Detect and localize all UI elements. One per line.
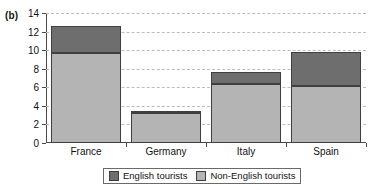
bar-segment-english-tourists[interactable] bbox=[51, 26, 121, 53]
bar-segment-non-english-tourists[interactable] bbox=[211, 84, 281, 143]
y-tick-label: 10 bbox=[28, 45, 39, 56]
legend-swatch-non-english-tourists bbox=[196, 171, 206, 181]
x-tick bbox=[366, 143, 367, 147]
y-tick bbox=[42, 13, 46, 14]
legend-item-english-tourists: English tourists bbox=[109, 170, 187, 181]
y-tick bbox=[42, 143, 46, 144]
x-tick-label-spain: Spain bbox=[313, 146, 339, 157]
y-tick-label: 2 bbox=[33, 119, 39, 130]
legend-label-english-tourists: English tourists bbox=[123, 170, 187, 181]
y-tick bbox=[42, 32, 46, 33]
x-tick bbox=[206, 143, 207, 147]
y-tick-label: 8 bbox=[33, 63, 39, 74]
y-tick bbox=[42, 87, 46, 88]
x-tick-label-france: France bbox=[70, 146, 101, 157]
y-tick-label: 4 bbox=[33, 100, 39, 111]
gridline bbox=[46, 13, 366, 14]
bar-spain[interactable] bbox=[291, 52, 361, 143]
y-tick bbox=[42, 50, 46, 51]
bar-segment-english-tourists[interactable] bbox=[291, 52, 361, 86]
legend-item-non-english-tourists: Non-English tourists bbox=[196, 170, 295, 181]
bar-segment-english-tourists[interactable] bbox=[131, 111, 201, 113]
y-tick bbox=[42, 124, 46, 125]
y-tick-label: 12 bbox=[28, 26, 39, 37]
x-tick bbox=[286, 143, 287, 147]
plot-area: 02468101214 FranceGermanyItalySpain bbox=[46, 13, 366, 143]
y-tick bbox=[42, 69, 46, 70]
x-tick bbox=[126, 143, 127, 147]
x-tick-label-italy: Italy bbox=[237, 146, 255, 157]
bar-france[interactable] bbox=[51, 26, 121, 143]
x-tick-label-germany: Germany bbox=[145, 146, 186, 157]
bar-segment-non-english-tourists[interactable] bbox=[291, 86, 361, 143]
bar-segment-non-english-tourists[interactable] bbox=[51, 53, 121, 143]
legend-swatch-english-tourists bbox=[109, 171, 119, 181]
bar-germany[interactable] bbox=[131, 112, 201, 143]
y-tick-label: 6 bbox=[33, 82, 39, 93]
bar-italy[interactable] bbox=[211, 72, 281, 143]
chart-legend: English tourists Non-English tourists bbox=[103, 168, 301, 184]
bar-segment-non-english-tourists[interactable] bbox=[131, 113, 201, 143]
chart-figure: (b) 02468101214 FranceGermanyItalySpain … bbox=[0, 0, 373, 190]
bar-segment-english-tourists[interactable] bbox=[211, 72, 281, 83]
panel-label: (b) bbox=[5, 10, 18, 21]
y-tick-label: 0 bbox=[33, 138, 39, 149]
legend-label-non-english-tourists: Non-English tourists bbox=[210, 170, 295, 181]
y-tick-label: 14 bbox=[28, 8, 39, 19]
y-tick bbox=[42, 106, 46, 107]
